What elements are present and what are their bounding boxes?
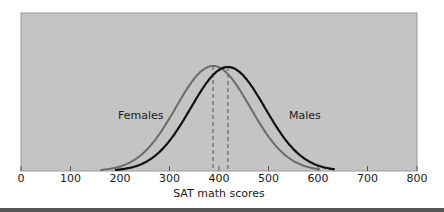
x-tick-label: 700 (357, 172, 378, 185)
plot-area (21, 13, 417, 171)
x-tick-label: 300 (159, 172, 180, 185)
x-axis-title: SAT math scores (173, 187, 265, 200)
x-tick-label: 600 (308, 172, 329, 185)
x-tick-label: 200 (110, 172, 131, 185)
bottom-rule (0, 208, 444, 212)
x-tick-label: 500 (258, 172, 279, 185)
sat-distribution-chart: 0100200300400500600700800 Females Males … (0, 0, 444, 212)
x-tick-label: 400 (209, 172, 230, 185)
males-label: Males (289, 109, 321, 122)
females-label: Females (118, 109, 164, 122)
x-axis-tick-labels: 0100200300400500600700800 (18, 172, 428, 185)
x-tick-label: 0 (18, 172, 25, 185)
x-tick-label: 100 (60, 172, 81, 185)
x-tick-label: 800 (407, 172, 428, 185)
